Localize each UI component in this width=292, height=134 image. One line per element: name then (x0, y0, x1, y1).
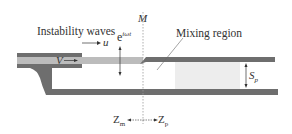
sp-label: Sp (249, 70, 258, 84)
sp-arrowhead-up (245, 63, 248, 67)
u-label: u (103, 37, 109, 48)
sp-sub: p (255, 76, 259, 84)
zm-sub: m (120, 120, 125, 128)
e-exponent: iωt (122, 30, 131, 38)
amplitude-arrowhead-up (119, 46, 122, 50)
zp-label: Zp (158, 114, 168, 128)
u-arrowhead (97, 41, 101, 45)
primary-flow (17, 57, 143, 64)
zp-base: Z (158, 113, 165, 125)
e-iwt-label: eiωt (117, 31, 131, 43)
mixing-region-label: Mixing region (176, 28, 242, 40)
zm-label: Zm (113, 114, 125, 128)
outer-body (30, 68, 278, 95)
inner-nozzle-bottom-wall (17, 64, 82, 68)
zm-arrowhead (127, 119, 131, 122)
v-label: V (56, 55, 63, 66)
sp-arrowhead-down (245, 84, 248, 88)
amplitude-arrowhead-down (119, 72, 122, 76)
inner-nozzle-top-wall (17, 53, 82, 57)
zp-sub: p (165, 120, 169, 128)
zm-base: Z (113, 113, 120, 125)
m-label: M (138, 13, 147, 24)
mixing-region-shade (175, 62, 240, 89)
